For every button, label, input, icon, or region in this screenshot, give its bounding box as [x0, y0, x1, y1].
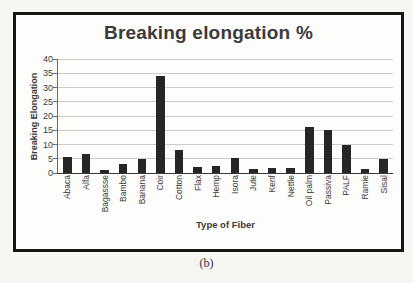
gridline — [58, 73, 393, 74]
gridline — [58, 87, 393, 88]
x-tick-label: Bagassse — [99, 175, 111, 223]
x-tick-label: Kenf — [266, 175, 278, 223]
bar-bagassse — [100, 170, 109, 173]
x-tick-label: Cotton — [173, 175, 185, 223]
y-axis-tick-labels: 0510152025303540 — [16, 59, 53, 173]
bar-flax — [193, 167, 202, 173]
y-tick-label: 40 — [16, 53, 53, 65]
y-tick-mark — [53, 87, 57, 88]
y-tick-mark — [53, 144, 57, 145]
y-tick-label: 25 — [16, 96, 53, 108]
y-tick-label: 10 — [16, 139, 53, 151]
bar-coir — [156, 76, 165, 173]
x-tick-label: Ramie — [359, 175, 371, 223]
x-axis-title: Type of Fiber — [58, 219, 393, 230]
y-tick-label: 0 — [16, 167, 53, 179]
x-tick-label: Bambo — [117, 175, 129, 223]
y-tick-mark — [53, 101, 57, 102]
gridline — [58, 59, 393, 60]
y-tick-label: 20 — [16, 110, 53, 122]
x-tick-label: Flax — [192, 175, 204, 223]
y-tick-label: 5 — [16, 153, 53, 165]
x-tick-label: Oil palm — [303, 175, 315, 223]
bar-palf — [342, 145, 351, 173]
x-tick-label: Nettle — [285, 175, 297, 223]
x-tick-label: PALF — [340, 175, 352, 223]
gridline — [58, 130, 393, 131]
y-tick-label: 15 — [16, 124, 53, 136]
bar-nettle — [286, 168, 295, 173]
bar-hemp — [212, 166, 221, 173]
figure-caption: (b) — [0, 256, 413, 271]
x-tick-label: Isora — [229, 175, 241, 223]
y-tick-mark — [53, 173, 57, 174]
x-tick-label: Alfa — [80, 175, 92, 223]
bar-banana — [138, 159, 147, 173]
scanned-figure-background: Breaking elongation % Breaking Elongatio… — [0, 0, 413, 283]
y-tick-mark — [53, 73, 57, 74]
y-tick-label: 35 — [16, 67, 53, 79]
bar-kenf — [268, 168, 277, 173]
bar-isora — [231, 158, 240, 173]
bar-jute — [249, 169, 258, 173]
x-tick-label: Banana — [136, 175, 148, 223]
bar-bambo — [119, 164, 128, 173]
plot-area — [58, 59, 393, 173]
bar-oil-palm — [305, 127, 314, 173]
bar-passiva — [324, 130, 333, 173]
gridline — [58, 101, 393, 102]
chart-title: Breaking elongation % — [16, 22, 401, 44]
bar-alfa — [82, 154, 91, 173]
chart-frame: Breaking elongation % Breaking Elongatio… — [13, 12, 404, 252]
x-tick-label: Hemp — [210, 175, 222, 223]
bar-sisal — [379, 159, 388, 173]
y-tick-mark — [53, 59, 57, 60]
x-tick-label: Abaca — [61, 175, 73, 223]
x-tick-label: Passiva — [322, 175, 334, 223]
y-tick-label: 30 — [16, 82, 53, 94]
bar-cotton — [175, 150, 184, 173]
bar-ramie — [361, 169, 370, 173]
x-tick-label: Jute — [247, 175, 259, 223]
x-tick-label: Sisal — [378, 175, 390, 223]
bar-abaca — [63, 157, 72, 173]
gridline — [58, 116, 393, 117]
y-tick-mark — [53, 158, 57, 159]
y-tick-mark — [53, 116, 57, 117]
y-tick-mark — [53, 130, 57, 131]
x-tick-label: Coir — [154, 175, 166, 223]
